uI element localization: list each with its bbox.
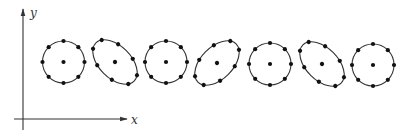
boundary-point [76, 45, 80, 49]
center-point [164, 60, 168, 64]
boundary-point [134, 72, 140, 78]
boundary-point [164, 39, 168, 43]
boundary-point [211, 42, 217, 48]
boundary-point [125, 81, 131, 87]
boundary-point [94, 62, 100, 68]
boundary-point [316, 79, 322, 85]
boundary-point [289, 62, 293, 66]
ellipse-shape [186, 32, 248, 94]
boundary-point [179, 45, 183, 49]
center-point [268, 62, 272, 66]
boundary-point [196, 57, 202, 63]
circle-shape [247, 41, 293, 87]
axes: x y [14, 6, 138, 130]
boundary-point [61, 39, 65, 43]
boundary-point [109, 77, 115, 83]
boundary-point [306, 39, 312, 45]
center-point [61, 60, 65, 64]
boundary-point [301, 64, 307, 70]
boundary-point [297, 48, 303, 54]
y-axis-label: y [29, 6, 37, 20]
circle-shape [40, 39, 86, 85]
boundary-point [268, 83, 272, 87]
boundary-point [350, 63, 354, 67]
boundary-point [82, 60, 86, 64]
boundary-point [283, 77, 287, 81]
boundary-point [40, 60, 44, 64]
boundary-point [268, 41, 272, 45]
boundary-point [47, 75, 51, 79]
shape-sequence [40, 31, 396, 95]
boundary-point [386, 78, 390, 82]
circle-shape [143, 39, 189, 85]
boundary-point [99, 37, 105, 43]
boundary-point [130, 56, 136, 62]
boundary-point [283, 47, 287, 51]
boundary-point [232, 63, 238, 69]
ellipse-shape [291, 33, 353, 95]
ellipse-shape [84, 31, 146, 93]
boundary-point [227, 38, 233, 44]
boundary-point [61, 81, 65, 85]
boundary-point [201, 82, 207, 88]
boundary-point [356, 48, 360, 52]
boundary-point [337, 58, 343, 64]
boundary-point [192, 73, 198, 79]
boundary-point [356, 78, 360, 82]
boundary-point [143, 60, 147, 64]
center-point [319, 61, 325, 67]
center-point [371, 63, 375, 67]
boundary-point [236, 47, 242, 53]
boundary-point [164, 81, 168, 85]
boundary-point [322, 43, 328, 49]
boundary-point [179, 75, 183, 79]
boundary-point [217, 78, 223, 84]
boundary-point [371, 84, 375, 88]
boundary-point [371, 42, 375, 46]
boundary-point [332, 83, 338, 89]
boundary-point [47, 45, 51, 49]
boundary-point [253, 77, 257, 81]
boundary-point [247, 62, 251, 66]
boundary-point [341, 74, 347, 80]
boundary-point [115, 41, 121, 47]
boundary-point [149, 75, 153, 79]
boundary-point [253, 47, 257, 51]
circle-shape [350, 42, 396, 88]
boundary-point [76, 75, 80, 79]
center-point [112, 59, 118, 65]
boundary-point [185, 60, 189, 64]
boundary-point [386, 48, 390, 52]
center-point [214, 60, 220, 66]
boundary-point [90, 46, 96, 52]
boundary-point [149, 45, 153, 49]
x-axis-label: x [131, 113, 138, 127]
deformation-diagram: x y [0, 0, 407, 140]
boundary-point [392, 63, 396, 67]
